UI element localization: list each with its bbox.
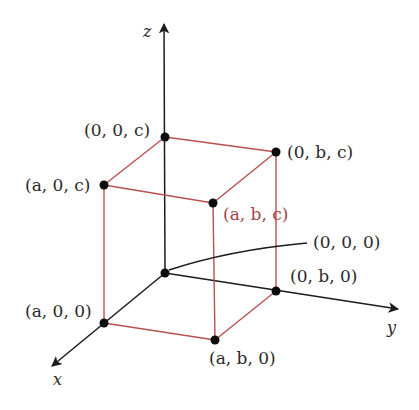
label-origin: (0, 0, 0) [313,232,380,252]
point-a0c [100,181,109,190]
box-edges [104,137,276,340]
point-0bc [272,148,281,157]
point-ab0 [211,336,220,345]
z-axis-label: z [142,22,152,41]
point-abc [209,199,218,208]
box-diagram: z y x (0, 0, c) (0, b, c) (a, 0, c) (a, … [0,0,419,410]
label-0bc: (0, b, c) [287,142,353,162]
point-origin [161,269,170,278]
origin-leader-line [169,243,307,270]
x-axis-label: x [53,370,62,389]
y-axis [165,273,398,309]
label-a0c: (a, 0, c) [25,175,90,195]
label-abc: (a, b, c) [223,204,288,224]
z-axis [164,24,165,273]
point-0b0 [272,287,281,296]
y-axis-label: y [386,318,397,337]
label-a00: (a, 0, 0) [25,301,92,321]
label-00c: (0, 0, c) [84,120,150,140]
label-ab0: (a, b, 0) [209,348,276,368]
label-0b0: (0, b, 0) [290,266,357,286]
point-a00 [100,319,109,328]
point-00c [161,133,170,142]
